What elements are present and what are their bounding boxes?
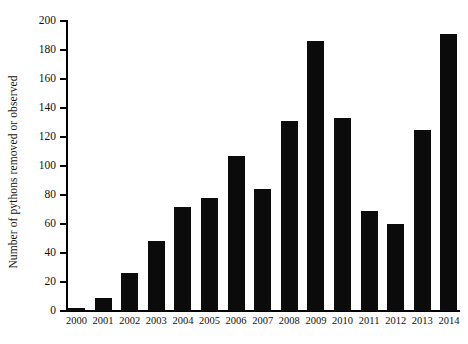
bar[interactable] — [148, 241, 165, 311]
y-axis-tick-label: 180 — [16, 44, 56, 56]
y-axis-tick-label: 40 — [16, 247, 56, 259]
y-axis-tick — [60, 49, 66, 51]
y-axis-tick — [60, 310, 66, 312]
bar-chart: Number of pythons removed or observed 02… — [0, 0, 468, 344]
y-axis-tick-label: 200 — [16, 15, 56, 27]
bar[interactable] — [387, 224, 404, 311]
y-axis-tick — [60, 78, 66, 80]
bar[interactable] — [174, 207, 191, 311]
bar[interactable] — [440, 34, 457, 311]
bar[interactable] — [95, 298, 112, 311]
y-axis-tick — [60, 165, 66, 167]
y-axis-tick-label: 0 — [16, 305, 56, 317]
y-axis-tick — [60, 20, 66, 22]
bar[interactable] — [361, 211, 378, 311]
x-axis-tick-label: 2014 — [429, 316, 468, 327]
bar[interactable] — [281, 121, 298, 311]
bar[interactable] — [68, 308, 85, 311]
bar[interactable] — [414, 130, 431, 311]
y-axis-tick-label: 60 — [16, 218, 56, 230]
y-axis-tick — [60, 194, 66, 196]
y-axis-tick-label: 140 — [16, 102, 56, 114]
bar[interactable] — [228, 156, 245, 311]
bar[interactable] — [254, 189, 271, 311]
bar[interactable] — [307, 41, 324, 311]
y-axis-tick-label: 100 — [16, 160, 56, 172]
y-axis-tick — [60, 223, 66, 225]
y-axis-tick — [60, 136, 66, 138]
bar[interactable] — [334, 118, 351, 311]
y-axis-tick-label: 80 — [16, 189, 56, 201]
y-axis-tick — [60, 107, 66, 109]
y-axis-tick-label: 120 — [16, 131, 56, 143]
plot-area — [68, 21, 460, 311]
y-axis-tick-label: 20 — [16, 276, 56, 288]
y-axis-tick — [60, 281, 66, 283]
bar[interactable] — [201, 198, 218, 311]
y-axis-tick-label: 160 — [16, 73, 56, 85]
bar[interactable] — [121, 273, 138, 311]
y-axis-tick — [60, 252, 66, 254]
